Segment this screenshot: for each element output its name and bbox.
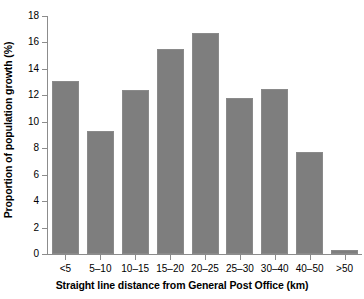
bar: [192, 33, 219, 254]
bar: [296, 152, 323, 254]
x-tick-label: 5–10: [89, 263, 111, 274]
y-axis-tick-labels: 024681012141618: [16, 0, 42, 299]
bar: [261, 89, 288, 254]
y-tick-mark: [42, 16, 47, 17]
y-tick-label: 12: [28, 90, 39, 100]
x-tick-label: 20–25: [191, 263, 219, 274]
y-tick-label: 8: [33, 143, 39, 153]
x-axis-title: Straight line distance from General Post…: [0, 279, 364, 291]
y-tick-mark: [42, 95, 47, 96]
x-tick-label: 30–40: [261, 263, 289, 274]
x-tick-label: <5: [60, 263, 71, 274]
x-tick-label: 40–50: [296, 263, 324, 274]
x-tick-mark: [100, 255, 101, 260]
y-tick-label: 16: [28, 37, 39, 47]
x-tick-mark: [310, 255, 311, 260]
y-tick-mark: [42, 122, 47, 123]
x-tick-mark: [240, 255, 241, 260]
plot-area: [48, 16, 362, 254]
bar-chart: Proportion of population growth (%) 0246…: [0, 0, 364, 299]
y-tick-mark: [42, 201, 47, 202]
x-tick-mark: [205, 255, 206, 260]
y-tick-label: 14: [28, 64, 39, 74]
y-tick-label: 0: [33, 249, 39, 259]
x-tick-label: >50: [336, 263, 353, 274]
y-tick-mark: [42, 69, 47, 70]
x-tick-mark: [275, 255, 276, 260]
y-tick-mark: [42, 175, 47, 176]
y-tick-mark: [42, 42, 47, 43]
x-tick-mark: [170, 255, 171, 260]
y-tick-label: 10: [28, 117, 39, 127]
x-tick-label: 10–15: [121, 263, 149, 274]
x-tick-label: 25–30: [226, 263, 254, 274]
bar: [52, 81, 79, 254]
x-tick-mark: [345, 255, 346, 260]
bar: [87, 131, 114, 254]
x-tick-mark: [135, 255, 136, 260]
y-axis-title: Proportion of population growth (%): [0, 0, 16, 260]
y-tick-mark: [42, 254, 47, 255]
y-tick-mark: [42, 228, 47, 229]
bar: [122, 90, 149, 254]
x-tick-label: 15–20: [156, 263, 184, 274]
y-tick-label: 6: [33, 170, 39, 180]
y-tick-mark: [42, 148, 47, 149]
y-tick-label: 2: [33, 223, 39, 233]
x-tick-mark: [65, 255, 66, 260]
bar: [157, 49, 184, 254]
bar: [226, 98, 253, 254]
y-tick-label: 4: [33, 196, 39, 206]
y-tick-label: 18: [28, 11, 39, 21]
y-axis-title-text: Proportion of population growth (%): [2, 42, 14, 219]
